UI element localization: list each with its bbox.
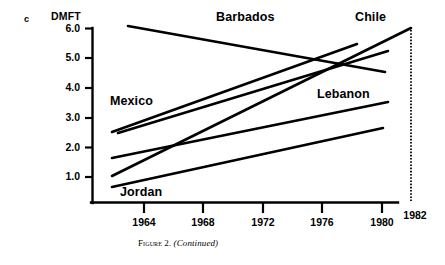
y-tick-label-1: 1.0 [46,170,80,182]
caption-number: 2. [164,238,171,248]
series-label-jordan: Jordan [120,185,162,199]
caption-prefix: Figure [138,238,162,248]
lebanon-line [112,102,388,158]
figure-panel-c: c DMFT 6.0 5.0 4.0 3.0 2.0 1.0 [0,0,445,265]
y-tick-label-6: 6.0 [46,22,80,34]
series-label-mexico: Mexico [110,94,153,108]
series-label-barbados: Barbados [216,10,274,24]
series-label-chile: Chile [355,10,386,24]
x-tick-label-1964: 1964 [121,216,167,228]
jordan-line [112,128,383,187]
y-tick-label-3: 3.0 [46,111,80,123]
x-tick-label-1976: 1976 [299,216,345,228]
series-label-lebanon: Lebanon [317,87,370,101]
y-tick-label-5: 5.0 [46,51,80,63]
x-tick-label-1968: 1968 [180,216,226,228]
x-tick-label-1982: 1982 [392,209,438,221]
y-tick-label-2: 2.0 [46,141,80,153]
caption-continued: (Continued) [174,238,219,248]
figure-caption: Figure 2. (Continued) [138,238,218,248]
y-tick-label-4: 4.0 [46,81,80,93]
x-tick-label-1972: 1972 [240,216,286,228]
